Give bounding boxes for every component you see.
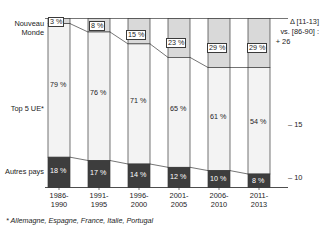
value-label-top5-2001-2005: 65 % xyxy=(170,105,186,113)
x-tick-2011-2013: 2011- 2013 xyxy=(236,192,282,210)
bar-group-1991-1995 xyxy=(88,19,110,188)
value-label-autres-pays-1986-1990: 18 % xyxy=(50,167,66,175)
delta-header-line1: Δ [11-13] xyxy=(259,17,319,27)
value-label-top5-1986-1990: 79 % xyxy=(50,81,66,89)
delta-value-top5: – 15 xyxy=(288,120,302,129)
value-label-top5-1996-2000: 71 % xyxy=(130,97,146,105)
chart-footnote: * Allemagne, Espagne, France, Italie, Po… xyxy=(6,216,153,225)
x-tick-2011-2013-line2: 2013 xyxy=(236,201,282,210)
value-label-autres-pays-1991-1995: 17 % xyxy=(90,169,106,177)
bar-group-1986-1990 xyxy=(48,19,70,188)
segment-top5 xyxy=(48,24,70,158)
delta-annotation-block: Δ [11-13] vs. [86-90] : + 26 xyxy=(259,17,319,47)
value-label-top5-2011-2013: 54 % xyxy=(250,118,266,126)
value-label-autres-pays-1996-2000: 14 % xyxy=(130,171,146,179)
value-label-nouveau-monde-1986-1990: 3 % xyxy=(48,17,64,27)
category-label-top5: Top 5 UE* xyxy=(2,105,44,114)
value-label-autres-pays-2001-2005: 12 % xyxy=(170,173,186,181)
value-label-autres-pays-2011-2013: 8 % xyxy=(252,177,264,185)
category-label-nouveau-monde: Nouveau Monde xyxy=(2,20,44,37)
delta-value-nouveau-monde: + 26 xyxy=(259,37,319,47)
chart-container: Nouveau Monde Top 5 UE* Autres pays Δ [1… xyxy=(0,0,321,232)
delta-value-autres-pays: – 10 xyxy=(288,173,302,182)
value-label-nouveau-monde-2006-2010: 29 % xyxy=(207,43,227,53)
value-label-nouveau-monde-1991-1995: 8 % xyxy=(89,21,105,31)
value-label-top5-2006-2010: 61 % xyxy=(210,113,226,121)
delta-header-line2: vs. [86-90] : xyxy=(259,27,319,37)
category-label-nouveau-monde-line2: Monde xyxy=(2,29,44,38)
value-label-autres-pays-2006-2010: 10 % xyxy=(210,175,226,183)
category-label-autres-pays: Autres pays xyxy=(0,168,44,177)
value-label-nouveau-monde-2001-2005: 23 % xyxy=(166,38,186,48)
value-label-nouveau-monde-2011-2013: 29 % xyxy=(247,43,267,53)
value-label-nouveau-monde-1996-2000: 15 % xyxy=(126,30,146,40)
value-label-top5-1991-1995: 76 % xyxy=(90,89,106,97)
